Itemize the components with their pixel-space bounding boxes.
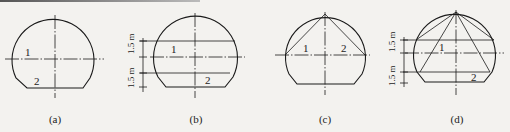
caption-b: (b) bbox=[190, 113, 203, 125]
panel-c: 1 2 bbox=[275, 12, 370, 95]
dimension-label-lower-b: 1.5 m bbox=[126, 67, 136, 88]
panel-b: 1.5 m 1.5 m 1 2 bbox=[126, 13, 245, 98]
caption-d: (d) bbox=[451, 113, 464, 125]
region-label-1-d: 1 bbox=[439, 41, 445, 53]
region-label-2-b: 2 bbox=[205, 74, 211, 86]
dimension-label-lower-d: 1.5 m bbox=[387, 65, 397, 86]
diagonal-inner-left-d bbox=[420, 12, 456, 72]
region-label-2-d: 2 bbox=[471, 71, 477, 83]
diagonal-outer-right-d bbox=[456, 12, 494, 40]
tunnel-outline-c bbox=[286, 18, 366, 84]
region-label-1-b: 1 bbox=[171, 43, 177, 55]
dimension-label-upper-b: 1.5 m bbox=[126, 33, 136, 54]
region-label-1-a: 1 bbox=[25, 46, 31, 58]
panel-a: 1 2 bbox=[5, 15, 104, 98]
region-label-2-c: 2 bbox=[341, 42, 347, 54]
caption-c: (c) bbox=[319, 113, 331, 125]
region-label-1-c: 1 bbox=[303, 42, 309, 54]
dimension-label-upper-d: 1.5 m bbox=[387, 31, 397, 52]
region-label-2-a: 2 bbox=[34, 75, 40, 87]
tunnel-outline-b bbox=[154, 16, 238, 87]
caption-a: (a) bbox=[49, 113, 61, 125]
diagonal-inner-right-d bbox=[456, 12, 490, 72]
panel-d: 1.5 m 1.5 m 1 2 bbox=[387, 10, 504, 95]
tunnel-excavation-diagrams: .o { fill: none; stroke: #1a1a1a; stroke… bbox=[0, 0, 510, 132]
diagonal-outer-left-d bbox=[416, 12, 456, 40]
